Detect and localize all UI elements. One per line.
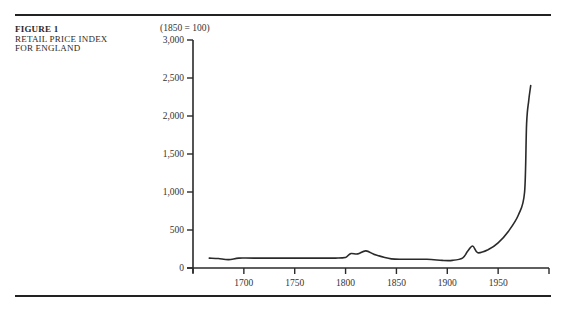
y-tick-label: 500 bbox=[170, 225, 185, 235]
x-tick-label: 1900 bbox=[438, 278, 457, 288]
line-chart: (1850 = 100) 05001,0001,5002,0002,5003,0… bbox=[0, 0, 564, 311]
y-tick-label: 2,500 bbox=[163, 73, 185, 83]
x-tick-label: 1850 bbox=[387, 278, 406, 288]
y-tick-label: 2,000 bbox=[163, 111, 185, 121]
x-tick-label: 1950 bbox=[489, 278, 508, 288]
x-tick-label: 1750 bbox=[285, 278, 304, 288]
series-line bbox=[209, 86, 530, 261]
y-tick-label: 1,500 bbox=[163, 149, 185, 159]
bottom-rule bbox=[15, 295, 551, 297]
x-tick-label: 1700 bbox=[234, 278, 253, 288]
y-tick-label: 0 bbox=[179, 263, 184, 273]
x-tick-label: 1800 bbox=[336, 278, 355, 288]
y-tick-label: 3,000 bbox=[163, 35, 185, 45]
axes: 05001,0001,5002,0002,5003,00017001750180… bbox=[163, 35, 549, 288]
y-axis-label: (1850 = 100) bbox=[160, 23, 210, 34]
y-tick-label: 1,000 bbox=[163, 187, 185, 197]
